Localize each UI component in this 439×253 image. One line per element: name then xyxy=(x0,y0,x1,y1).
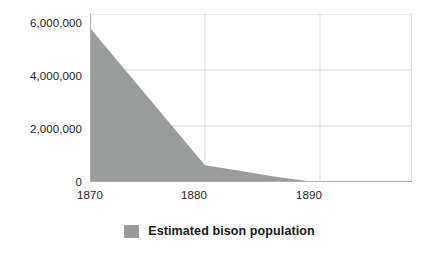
bison-population-area-chart: 6,000,000 4,000,000 2,000,000 0 1870 188… xyxy=(0,0,439,253)
x-tick-label-1870: 1870 xyxy=(60,189,120,202)
legend-label: Estimated bison population xyxy=(148,224,315,238)
x-axis-tick-labels: 1870 1880 1890 xyxy=(0,0,439,253)
legend-swatch-icon xyxy=(124,225,139,238)
x-tick-label-1880: 1880 xyxy=(164,189,224,202)
legend-item-estimated-bison-population: Estimated bison population xyxy=(124,224,315,238)
chart-legend: Estimated bison population xyxy=(0,224,439,238)
x-tick-label-1890: 1890 xyxy=(279,189,339,202)
